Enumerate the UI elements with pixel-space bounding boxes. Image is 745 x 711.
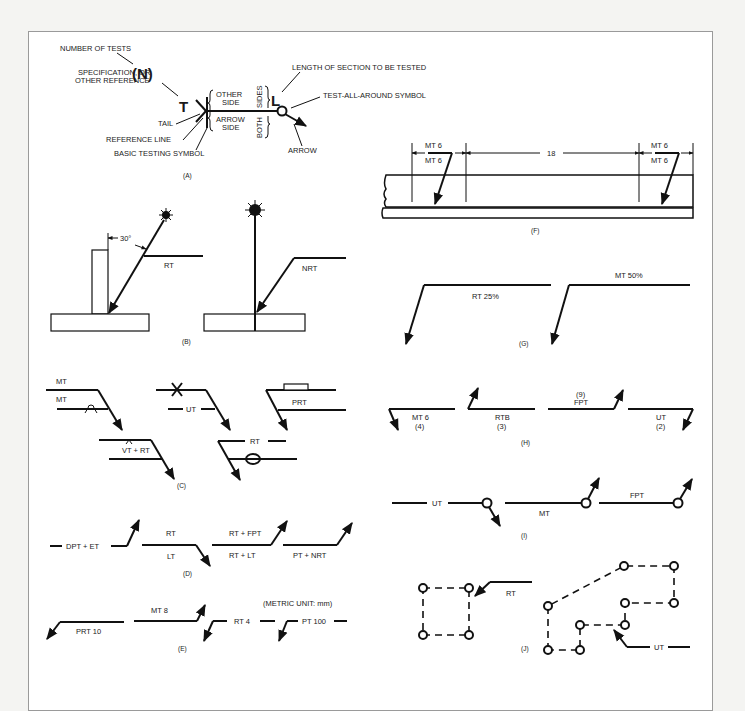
caption-a: (A) — [183, 172, 192, 180]
h-count-3: (3) — [497, 422, 507, 431]
caption-c: (C) — [177, 482, 186, 490]
panel-f: 18 MT 6 MT 6 MT 6 MT 6 (F) — [382, 141, 693, 235]
c-symbol-vt-rt: VT + RT — [122, 446, 150, 455]
test-point-icon — [621, 599, 629, 607]
h-count-2: (2) — [656, 422, 666, 431]
panel-i: UT MT FPT (I) — [392, 478, 692, 540]
i-symbol-mt: MT — [539, 509, 550, 518]
e-symbol-prt-10: PRT 10 — [76, 627, 101, 636]
test-point-icon — [465, 631, 473, 639]
l-symbol: L — [271, 92, 280, 109]
d-symbol-dpt-et: DPT + ET — [66, 542, 99, 551]
label-both: BOTH — [255, 117, 264, 138]
caption-d: (D) — [183, 570, 192, 578]
label-reference-line: REFERENCE LINE — [106, 135, 171, 144]
test-point-icon — [419, 631, 427, 639]
panel-j: RT UT (J) — [419, 562, 690, 654]
panel-c: MT MT UT PRT VT + RT RT (C) — [46, 377, 346, 490]
radiation-source-icon — [159, 208, 173, 222]
test-point-icon — [670, 562, 678, 570]
test-point-icon — [576, 621, 584, 629]
all-around-icon — [674, 499, 683, 508]
label-specification-2: OTHER REFERENCE — [75, 76, 150, 85]
h-count-4: (4) — [415, 422, 425, 431]
i-symbol-fpt: FPT — [630, 491, 645, 500]
label-arrow: ARROW — [288, 146, 318, 155]
caption-e: (E) — [178, 645, 187, 653]
i-symbol-ut: UT — [432, 499, 442, 508]
label-number-of-tests: NUMBER OF TESTS — [60, 44, 131, 53]
c-symbol-mt-bottom: MT — [56, 395, 67, 404]
neutron-source-icon — [245, 200, 265, 220]
all-around-icon — [483, 499, 492, 508]
label-test-all-around: TEST-ALL-AROUND SYMBOL — [323, 91, 426, 100]
label-tail: TAIL — [158, 119, 173, 128]
h-symbol-mt-6: MT 6 — [412, 413, 429, 422]
caption-h: (H) — [521, 439, 530, 447]
d-symbol-rt-lt: RT + LT — [229, 551, 256, 560]
e-symbol-rt-4: RT 4 — [234, 617, 250, 626]
e-symbol-pt-100: PT 100 — [302, 617, 326, 626]
test-point-icon — [544, 646, 552, 654]
t-symbol: T — [179, 98, 188, 115]
label-length-of-section: LENGTH OF SECTION TO BE TESTED — [292, 63, 427, 72]
label-arrow-side-2: SIDE — [222, 123, 240, 132]
test-point-icon — [670, 599, 678, 607]
c-symbol-rt: RT — [250, 437, 260, 446]
d-symbol-pt-nrt: PT + NRT — [293, 551, 327, 560]
label-basic-testing-symbol: BASIC TESTING SYMBOL — [114, 149, 204, 158]
caption-g: (G) — [519, 340, 528, 348]
test-point-icon — [544, 602, 552, 610]
caption-b: (B) — [182, 338, 191, 346]
c-symbol-ut: UT — [186, 405, 196, 414]
h-symbol-fpt: FPT — [574, 398, 589, 407]
c-symbol-mt-top: MT — [56, 377, 67, 386]
f-right-bottom: MT 6 — [651, 156, 668, 165]
all-around-icon — [582, 499, 591, 508]
f-spacing: 18 — [547, 149, 555, 158]
panel-d: DPT + ET RT LT RT + FPT RT + LT PT + NRT… — [50, 520, 352, 578]
c-symbol-prt: PRT — [292, 398, 307, 407]
f-left-bottom: MT 6 — [425, 156, 442, 165]
e-symbol-mt-8: MT 8 — [151, 606, 168, 615]
f-left-top: MT 6 — [425, 141, 442, 150]
j-symbol-ut: UT — [654, 643, 664, 652]
b-left-method: RT — [164, 261, 174, 270]
test-point-icon — [620, 562, 628, 570]
test-point-icon — [465, 584, 473, 592]
test-point-icon — [419, 584, 427, 592]
panel-g: RT 25% MT 50% (G) — [406, 271, 690, 348]
angle-label: 30° — [120, 234, 131, 243]
caption-j: (J) — [521, 645, 529, 653]
panel-h: MT 6 (4) RTB (3) (9) FPT UT (2) (H) — [389, 388, 693, 447]
panel-b: 30° RT NRT (B) — [51, 200, 346, 346]
h-symbol-ut: UT — [656, 413, 666, 422]
label-sides: SIDES — [255, 85, 264, 108]
b-right-method: NRT — [302, 264, 318, 273]
label-other-side-2: SIDE — [222, 98, 240, 107]
h-symbol-rtb: RTB — [495, 413, 510, 422]
d-symbol-rt-fpt: RT + FPT — [229, 529, 262, 538]
panel-a: NUMBER OF TESTS (N) SPECIFICATION, OR OT… — [60, 44, 427, 180]
test-point-icon — [621, 621, 629, 629]
g-symbol-mt-50: MT 50% — [615, 271, 643, 280]
d-symbol-rt: RT — [166, 529, 176, 538]
j-symbol-rt: RT — [506, 589, 516, 598]
d-symbol-lt: LT — [167, 552, 176, 561]
caption-i: (I) — [521, 532, 527, 540]
f-right-top: MT 6 — [651, 141, 668, 150]
e-metric-note: (METRIC UNIT: mm) — [263, 599, 333, 608]
test-point-icon — [576, 646, 584, 654]
g-symbol-rt-25: RT 25% — [472, 292, 499, 301]
panel-e: (METRIC UNIT: mm) PRT 10 MT 8 RT 4 PT 10… — [47, 599, 347, 653]
caption-f: (F) — [531, 227, 539, 235]
